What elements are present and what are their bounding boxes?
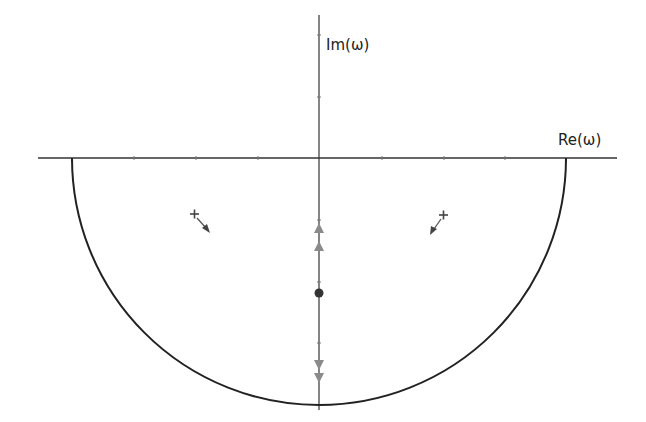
- arrow-up-icon: [314, 241, 324, 251]
- left-pole-arrow-icon: [197, 218, 210, 233]
- imaginary-axis-point: [315, 289, 324, 298]
- arrow-down-icon: [314, 360, 324, 370]
- right-pole-marker: [439, 211, 448, 220]
- imaginary-axis-label: Im(ω): [326, 36, 369, 54]
- real-axis-label: Re(ω): [558, 131, 601, 149]
- arrow-down-icon: [314, 373, 324, 383]
- right-pole-arrow-icon: [430, 219, 441, 235]
- contour-diagram: [0, 0, 646, 422]
- arrow-up-icon: [314, 223, 324, 233]
- left-pole-marker: [190, 210, 199, 219]
